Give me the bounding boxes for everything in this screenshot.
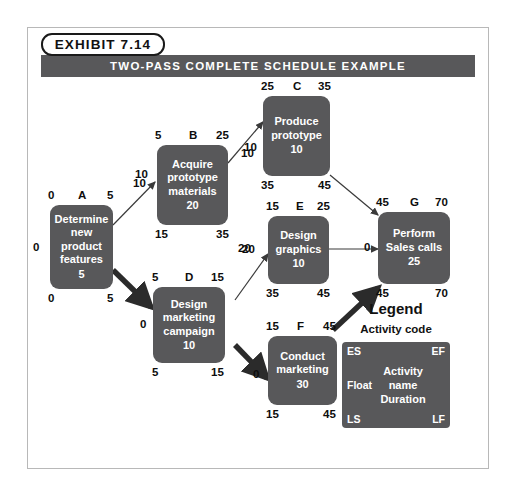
node-f-id: F — [297, 320, 304, 332]
activity-node-e[interactable]: Design graphics 10 — [268, 216, 329, 284]
activity-name-line: Acquire — [172, 158, 213, 172]
activity-name-line: Determine — [55, 213, 109, 227]
node-b-ls: 15 — [155, 228, 168, 240]
node-c-ef: 35 — [318, 80, 331, 92]
node-d-lf: 15 — [211, 366, 224, 378]
activity-name-line: features — [60, 253, 103, 267]
node-e-lf: 45 — [317, 287, 330, 299]
node-d-id: D — [185, 271, 193, 283]
activity-duration: 10 — [292, 257, 304, 271]
activity-name-line: Sales calls — [386, 241, 442, 255]
node-e-ef: 25 — [317, 200, 330, 212]
node-c-ls: 35 — [261, 179, 274, 191]
node-f-lf: 45 — [323, 408, 336, 420]
activity-node-c[interactable]: Produce prototype 10 — [263, 96, 330, 176]
edge-label-d-e: 20 — [238, 242, 251, 254]
node-a-id: A — [78, 189, 86, 201]
activity-name-line: Produce — [274, 115, 318, 129]
node-g-ls: 45 — [376, 287, 389, 299]
activity-name-line: Design — [280, 229, 317, 243]
node-e-id: E — [296, 200, 304, 212]
node-g-es: 45 — [376, 196, 389, 208]
activity-duration: 10 — [290, 143, 302, 157]
node-a-float: 0 — [33, 241, 39, 253]
legend-center-text: Activity name Duration — [342, 364, 450, 406]
activity-name-line: product — [61, 240, 102, 254]
edge-label-a-b: 10 — [135, 168, 148, 180]
node-c-lf: 45 — [318, 179, 331, 191]
activity-duration: 20 — [186, 199, 198, 213]
node-f-ls: 15 — [266, 408, 279, 420]
legend-es-label: ES — [347, 345, 361, 357]
node-g-id: G — [410, 196, 419, 208]
node-b-ef: 25 — [216, 129, 229, 141]
node-g-lf: 70 — [435, 287, 448, 299]
legend-lf-label: LF — [432, 413, 445, 425]
node-b-id: B — [189, 129, 197, 141]
node-d-es: 5 — [152, 271, 158, 283]
legend-ls-label: LS — [347, 413, 360, 425]
activity-name-line: campaign — [163, 325, 214, 339]
node-a-ls: 0 — [48, 292, 54, 304]
legend-heading: Legend — [369, 300, 422, 317]
node-g-float: 0 — [364, 241, 370, 253]
activity-duration: 25 — [408, 255, 420, 269]
activity-name-line: marketing — [163, 311, 216, 325]
node-f-float: 0 — [253, 368, 259, 380]
activity-duration: 30 — [296, 378, 308, 392]
node-g-ef: 70 — [435, 196, 448, 208]
activity-duration: 10 — [183, 339, 195, 353]
node-f-es: 15 — [266, 320, 279, 332]
activity-name-line: materials — [168, 185, 216, 199]
activity-name-line: Conduct — [280, 350, 325, 364]
activity-node-g[interactable]: Perform Sales calls 25 — [378, 212, 450, 284]
activity-name-line: prototype — [271, 129, 322, 143]
node-d-float: 0 — [140, 318, 146, 330]
node-a-ef: 5 — [107, 189, 113, 201]
legend-activity-box: ES EF Float LS LF Activity name Duration — [342, 342, 450, 428]
node-c-es: 25 — [261, 80, 274, 92]
activity-name-line: marketing — [276, 363, 329, 377]
node-d-ef: 15 — [211, 271, 224, 283]
activity-name-line: Perform — [393, 227, 435, 241]
node-e-ls: 35 — [266, 287, 279, 299]
node-a-lf: 5 — [107, 292, 113, 304]
node-b-lf: 35 — [216, 228, 229, 240]
activity-node-a[interactable]: Determine new product features 5 — [50, 205, 113, 289]
activity-name-line: graphics — [276, 243, 322, 257]
activity-name-line: Design — [171, 298, 208, 312]
activity-name-line: new — [71, 226, 92, 240]
activity-duration: 5 — [78, 268, 84, 282]
exhibit-title-banner: TWO-PASS COMPLETE SCHEDULE EXAMPLE — [41, 55, 475, 77]
legend-activity-line: Activity — [356, 364, 450, 378]
activity-name-line: prototype — [167, 171, 218, 185]
node-b-es: 5 — [155, 129, 161, 141]
legend-name-line: name — [356, 378, 450, 392]
activity-node-f[interactable]: Conduct marketing 30 — [268, 336, 337, 405]
legend-ef-label: EF — [432, 345, 445, 357]
edge-label-b-c: 10 — [241, 147, 254, 159]
node-c-id: C — [293, 80, 301, 92]
legend-subheading: Activity code — [360, 323, 432, 335]
node-e-es: 15 — [266, 200, 279, 212]
node-f-ef: 45 — [323, 320, 336, 332]
legend-duration-line: Duration — [356, 392, 450, 406]
node-a-es: 0 — [48, 189, 54, 201]
exhibit-tag: EXHIBIT 7.14 — [41, 33, 165, 56]
node-d-ls: 5 — [152, 366, 158, 378]
activity-node-d[interactable]: Design marketing campaign 10 — [153, 287, 225, 363]
activity-node-b[interactable]: Acquire prototype materials 20 — [157, 145, 228, 225]
